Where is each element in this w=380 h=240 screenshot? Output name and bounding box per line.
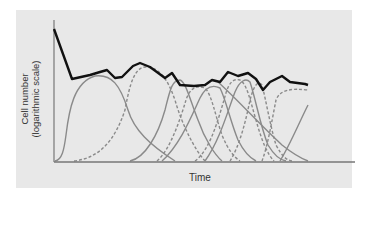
subpopulation-curve-4	[157, 87, 240, 161]
subpopulation-curve-3	[130, 80, 222, 161]
subpopulation-curve-1	[55, 76, 175, 161]
y-axis-label-line2: (logarithmic scale)	[30, 60, 41, 137]
subpopulation-curve-2	[74, 67, 205, 161]
subpopulation-curve-11	[280, 105, 308, 161]
y-axis-label-line1: Cell number	[19, 60, 30, 137]
subpopulation-curve-5	[162, 86, 256, 161]
subpopulation-curve-10	[262, 89, 308, 161]
x-axis-label: Time	[170, 172, 230, 183]
y-axis-label: Cell number (logarithmic scale)	[10, 58, 50, 140]
